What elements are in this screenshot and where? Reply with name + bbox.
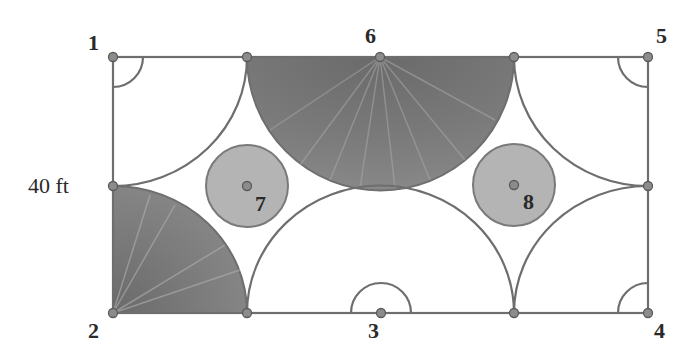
point-4 <box>644 309 653 318</box>
point-bottom-right-arc-end <box>510 309 519 318</box>
point-6 <box>376 53 385 62</box>
dimension-label-height: 40 ft <box>28 173 69 198</box>
point-top-left-arc-end <box>243 53 252 62</box>
label-point-1: 1 <box>88 30 99 55</box>
angle-marker-1 <box>113 57 143 87</box>
point-1 <box>109 53 118 62</box>
label-point-3: 3 <box>368 318 379 343</box>
label-point-4: 4 <box>654 318 665 343</box>
angle-marker-4 <box>618 283 648 313</box>
point-7 <box>243 182 252 191</box>
label-point-5: 5 <box>656 23 667 48</box>
point-3 <box>377 309 386 318</box>
point-8 <box>510 181 519 190</box>
point-top-right-arc-end <box>510 53 519 62</box>
point-right-mid <box>644 182 653 191</box>
point-5 <box>644 53 653 62</box>
semicircle-bottom-3 <box>247 186 514 313</box>
label-point-7: 7 <box>255 191 266 216</box>
point-left-mid <box>109 182 118 191</box>
point-bottom-left-arc-end <box>243 309 252 318</box>
label-point-6: 6 <box>365 23 376 48</box>
region-diagram: 1 2 3 4 5 6 7 8 40 ft <box>0 0 696 360</box>
angle-marker-5 <box>618 57 648 87</box>
shaded-semicircle-top <box>247 57 514 191</box>
label-point-2: 2 <box>88 318 99 343</box>
point-2 <box>109 309 118 318</box>
label-point-8: 8 <box>523 189 534 214</box>
